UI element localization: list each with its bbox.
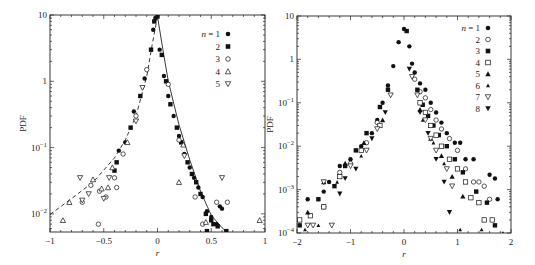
- open-circle-marker: [166, 82, 170, 86]
- filled-circle-marker: [463, 157, 467, 161]
- right-chart-panel: −2−1012rPDF10−410−310−210−1110n = 123456…: [265, 11, 513, 259]
- filled-square-marker: [138, 94, 142, 98]
- filled-circle-marker: [188, 165, 192, 169]
- filled-square-marker: [128, 125, 132, 129]
- filled-circle-marker: [429, 101, 433, 105]
- open-triangle-up-marker: [225, 69, 230, 74]
- y-tick-label: 1: [290, 54, 295, 64]
- y-tick-label: 10: [38, 10, 48, 20]
- filled-circle-marker: [177, 134, 181, 138]
- legend-item: 2: [476, 35, 491, 45]
- filled-square-marker: [378, 105, 382, 109]
- legend-item: 8: [476, 104, 491, 114]
- open-circle-marker: [439, 127, 443, 131]
- legend-item: n = 1: [201, 29, 230, 39]
- filled-circle-marker: [142, 76, 146, 80]
- legend-label: 4: [216, 67, 221, 77]
- filled-square-marker: [404, 29, 408, 33]
- open-triangle-down-marker: [225, 82, 230, 87]
- legend: n = 12345678: [461, 23, 490, 114]
- legend-item: n = 1: [461, 23, 490, 33]
- x-axis-label: r: [156, 248, 160, 258]
- filled-square-marker: [160, 53, 164, 57]
- open-circle-marker: [114, 185, 118, 189]
- open-triangle-up-marker: [99, 186, 104, 191]
- open-square-marker: [482, 218, 486, 222]
- small-filled-triangle-up-marker: [480, 228, 484, 232]
- open-circle-marker: [225, 200, 229, 204]
- filled-square-marker: [198, 192, 202, 196]
- filled-circle-marker: [391, 64, 395, 68]
- filled-triangle-down-marker: [442, 180, 447, 185]
- series-n-6: [303, 118, 505, 235]
- filled-circle-marker: [196, 185, 200, 189]
- x-tick-label: −0.5: [96, 236, 113, 246]
- filled-triangle-up-marker: [439, 153, 444, 158]
- filled-circle-marker: [220, 206, 224, 210]
- left-chart-panel: −1−0.500.51rPDF10−210−1110n = 12345: [18, 10, 267, 258]
- filled-triangle-down-marker: [447, 210, 452, 215]
- legend-item: 2: [216, 42, 231, 52]
- filled-triangle-up-marker: [305, 210, 310, 215]
- open-circle-marker: [482, 184, 486, 188]
- y-tick-label: 10: [285, 11, 295, 21]
- filled-triangle-down-marker: [343, 176, 348, 181]
- legend-label: 8: [476, 104, 481, 114]
- open-circle-marker: [112, 176, 116, 180]
- x-tick-label: −1: [45, 236, 55, 246]
- filled-triangle-up-marker: [485, 71, 490, 76]
- filled-circle-marker: [327, 180, 331, 184]
- y-tick-label: 10−2: [278, 139, 294, 151]
- open-circle-marker: [214, 200, 218, 204]
- data-area: [50, 14, 262, 233]
- open-circle-marker: [338, 170, 342, 174]
- open-triangle-up-marker: [257, 218, 262, 223]
- filled-square-marker: [364, 131, 368, 135]
- filled-circle-marker: [370, 131, 374, 135]
- open-triangle-down-marker: [388, 93, 393, 98]
- open-square-marker: [418, 101, 422, 105]
- filled-square-marker: [194, 180, 198, 184]
- legend-label: 5: [476, 69, 481, 79]
- series-n-8: [337, 67, 452, 215]
- legend-label: 3: [476, 46, 481, 56]
- open-square-marker: [359, 148, 363, 152]
- filled-square-marker: [209, 218, 213, 222]
- x-tick-label: 0: [155, 236, 160, 246]
- open-circle-marker: [89, 183, 93, 187]
- filled-square-marker: [204, 212, 208, 216]
- open-triangle-down-marker: [450, 184, 455, 189]
- legend-label: 4: [476, 58, 481, 68]
- small-filled-triangle-up-marker: [442, 162, 446, 166]
- filled-triangle-down-marker: [407, 67, 412, 72]
- filled-triangle-down-marker: [337, 192, 342, 197]
- legend-item: 6: [476, 81, 491, 91]
- open-circle-marker: [145, 67, 149, 71]
- series-n-3: [297, 29, 497, 228]
- legend-label: n = 1: [461, 23, 480, 33]
- figure: −1−0.500.51rPDF10−210−1110n = 12345 −2−1…: [0, 0, 535, 265]
- filled-circle-marker: [117, 148, 121, 152]
- fit-negative-line: [50, 17, 158, 215]
- filled-square-marker: [152, 19, 156, 23]
- filled-circle-marker: [487, 173, 491, 177]
- filled-circle-marker: [380, 101, 384, 105]
- open-circle-marker: [134, 114, 138, 118]
- y-tick-label: 10−3: [278, 183, 294, 195]
- legend-item: 5: [216, 79, 231, 89]
- open-triangle-up-marker: [110, 165, 115, 170]
- filled-circle-marker: [445, 131, 449, 135]
- open-square-marker: [439, 144, 443, 148]
- open-triangle-down-marker: [434, 148, 439, 153]
- filled-square-marker: [316, 197, 320, 201]
- open-circle-marker: [96, 222, 100, 226]
- series-n-5: [78, 86, 225, 203]
- filled-square-marker: [474, 189, 478, 193]
- x-tick-label: 0.5: [206, 236, 218, 246]
- filled-circle-marker: [348, 157, 352, 161]
- filled-square-marker: [354, 148, 358, 152]
- open-triangle-down-marker: [305, 223, 310, 228]
- filled-square-marker: [485, 200, 489, 204]
- filled-square-marker: [216, 224, 220, 228]
- legend-label: 3: [216, 54, 221, 64]
